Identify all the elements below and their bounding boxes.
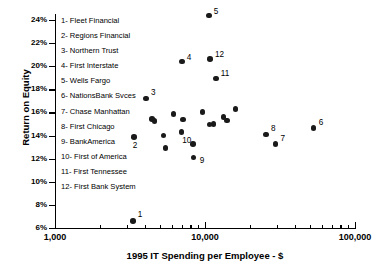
x-tick-minor	[348, 225, 349, 229]
data-point	[273, 141, 279, 147]
data-point-label: 1	[138, 210, 143, 219]
data-point	[143, 96, 149, 102]
legend-item: 12- First Bank System	[61, 179, 136, 194]
data-point	[213, 76, 219, 82]
legend-item: 1- Fleet Financial	[61, 13, 136, 28]
y-tick	[49, 89, 55, 90]
y-tick	[49, 20, 55, 21]
y-tick	[49, 66, 55, 67]
data-point	[233, 106, 239, 112]
legend-item: 6- NationsBank Svces	[61, 88, 136, 103]
data-point	[200, 109, 206, 115]
y-tick	[49, 136, 55, 137]
data-point-label: 3	[151, 88, 156, 97]
y-tick	[49, 159, 55, 160]
x-tick-minor	[310, 225, 311, 229]
x-tick-label: 1,000	[20, 232, 90, 242]
x-tick-minor	[145, 225, 146, 229]
data-point	[161, 133, 167, 139]
y-tick-label: 16%	[7, 108, 47, 116]
x-tick-minor	[172, 225, 173, 229]
data-point	[263, 132, 269, 138]
y-tick-label: 24%	[7, 16, 47, 24]
data-point-label: 4	[187, 53, 192, 62]
y-tick	[49, 112, 55, 113]
chart-legend: 1- Fleet Financial2- Regions Financial3-…	[61, 13, 136, 194]
legend-item: 5- Wells Fargo	[61, 73, 136, 88]
data-point-label: 11	[221, 69, 230, 78]
x-tick-minor	[127, 225, 128, 229]
data-point-label: 12	[215, 50, 224, 59]
data-point-label: 7	[280, 134, 285, 143]
x-tick-minor	[100, 225, 101, 229]
data-point	[171, 111, 177, 117]
x-tick-major	[55, 222, 56, 229]
legend-item: 11- First Tennessee	[61, 164, 136, 179]
data-point	[163, 145, 169, 151]
x-tick-minor	[277, 225, 278, 229]
x-axis-title: 1995 IT Spending per Employee - $	[55, 250, 355, 261]
x-tick-major	[205, 222, 206, 229]
y-tick-label: 12%	[7, 155, 47, 163]
x-tick-minor	[190, 225, 191, 229]
data-point	[206, 13, 212, 19]
y-tick-label: 14%	[7, 132, 47, 140]
data-point	[130, 218, 136, 224]
x-tick-major	[355, 222, 356, 229]
y-tick	[49, 182, 55, 183]
data-point	[207, 56, 213, 62]
y-tick-label: 6%	[7, 224, 47, 232]
x-tick-minor	[340, 225, 341, 229]
data-point-label: 5	[214, 7, 219, 16]
data-point-label: 6	[319, 118, 324, 127]
data-point-label: 8	[271, 124, 276, 133]
x-tick-minor	[198, 225, 199, 229]
x-tick-label: 100,000	[320, 232, 390, 242]
legend-item: 10- First of America	[61, 149, 136, 164]
data-point	[211, 121, 217, 127]
legend-item: 2- Regions Financial	[61, 28, 136, 43]
data-point	[152, 118, 158, 124]
x-tick-minor	[160, 225, 161, 229]
legend-item: 7- Chase Manhattan	[61, 104, 136, 119]
data-point-label: 9	[200, 156, 205, 165]
legend-item: 8- First Chicago	[61, 119, 136, 134]
data-point	[224, 118, 230, 124]
y-axis-line	[55, 14, 56, 229]
x-tick-minor	[332, 225, 333, 229]
data-point	[191, 155, 197, 161]
y-tick-label: 8%	[7, 201, 47, 209]
data-point	[180, 117, 186, 123]
data-point	[190, 141, 196, 147]
data-point	[311, 125, 317, 131]
data-point	[179, 129, 185, 135]
x-tick-minor	[250, 225, 251, 229]
y-tick-label: 20%	[7, 62, 47, 70]
x-tick-minor	[322, 225, 323, 229]
legend-item: 9- BankAmerica	[61, 134, 136, 149]
y-tick-label: 18%	[7, 85, 47, 93]
x-tick-label: 10,000	[170, 232, 240, 242]
y-tick	[49, 205, 55, 206]
data-point	[179, 59, 185, 65]
y-tick	[49, 43, 55, 44]
y-tick-label: 22%	[7, 39, 47, 47]
legend-item: 3- Northern Trust	[61, 43, 136, 58]
scatter-chart: Return on Equity 24%22%20%18%16%14%12%10…	[0, 0, 390, 270]
x-tick-minor	[182, 225, 183, 229]
legend-item: 4- First Interstate	[61, 58, 136, 73]
y-tick-label: 10%	[7, 178, 47, 186]
x-tick-minor	[295, 225, 296, 229]
